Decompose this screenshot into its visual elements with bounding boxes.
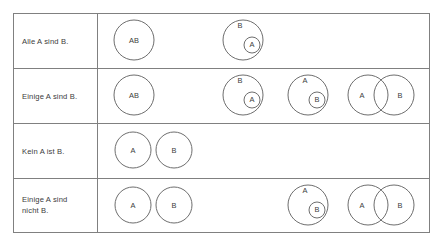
circle-label-a: A bbox=[250, 40, 255, 49]
circle-label-a: A bbox=[303, 76, 308, 85]
circle-label-b: B bbox=[398, 91, 403, 100]
circle-label-a: A bbox=[131, 201, 136, 210]
circle-label-a: A bbox=[303, 186, 308, 195]
circle-label-b: B bbox=[238, 76, 243, 85]
circle-label-a: A bbox=[360, 91, 365, 100]
euler-diagram-table: Alle A sind B. AB B A Einige A sind B. A… bbox=[0, 0, 444, 246]
circle-label-ab: AB bbox=[129, 91, 139, 100]
circle-label-b: B bbox=[398, 201, 403, 210]
circle-label-ab: AB bbox=[129, 36, 139, 45]
row-label-alle-a-sind-b: Alle A sind B. bbox=[22, 37, 68, 46]
circle-label-a: A bbox=[360, 201, 365, 210]
circle-label-a: A bbox=[250, 95, 255, 104]
row-label-einige-a-sind-nicht-b-line2: nicht B. bbox=[22, 206, 49, 215]
circle-label-a: A bbox=[131, 146, 136, 155]
circle-label-b: B bbox=[238, 21, 243, 30]
circle-label-b: B bbox=[172, 146, 177, 155]
circle-label-b: B bbox=[172, 201, 177, 210]
euler-table-svg: Alle A sind B. AB B A Einige A sind B. A… bbox=[0, 0, 444, 246]
row-label-einige-a-sind-b: Einige A sind B. bbox=[22, 92, 77, 101]
row-label-einige-a-sind-nicht-b-line1: Einige A sind bbox=[22, 195, 67, 204]
row-label-kein-a-ist-b: Kein A ist B. bbox=[22, 147, 64, 156]
circle-label-b: B bbox=[315, 205, 320, 214]
circle-label-b: B bbox=[315, 95, 320, 104]
